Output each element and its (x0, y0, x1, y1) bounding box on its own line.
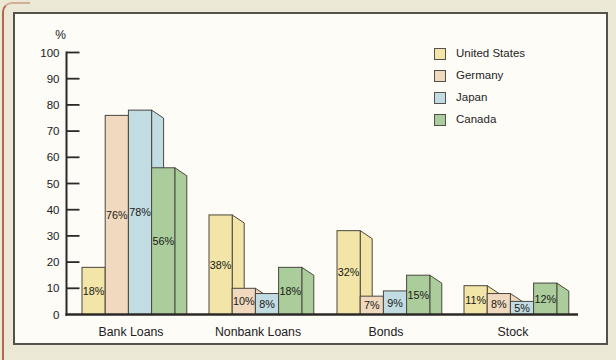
bar-value-label: 18% (279, 285, 301, 297)
y-tick-label: 50 (47, 178, 60, 190)
y-tick-label: 30 (47, 230, 60, 242)
bar-value-label: 38% (210, 259, 232, 271)
y-tick-label: 60 (47, 151, 60, 163)
legend-label-united-states: United States (456, 47, 525, 60)
bar-value-label: 11% (465, 294, 486, 306)
legend-label-japan: Japan (456, 91, 487, 104)
y-tick-label: 40 (47, 204, 60, 216)
legend-label-germany: Germany (456, 69, 503, 82)
y-tick-label: 0 (53, 309, 59, 321)
bar-side-canada-nonbank-loans (302, 267, 314, 314)
bar-side-canada-stock (557, 283, 569, 314)
y-tick-label: 90 (47, 73, 60, 85)
y-tick-label: 20 (47, 256, 60, 268)
bar-value-label: 10% (233, 295, 255, 307)
bar-value-label: 8% (491, 298, 507, 310)
bar-side-canada-bonds (430, 275, 442, 314)
legend-item-germany: Germany (434, 69, 525, 82)
legend-item-united-states: United States (434, 47, 525, 60)
legend-item-japan: Japan (434, 91, 525, 104)
bar-value-label: 18% (83, 285, 105, 297)
legend-swatch-japan (434, 92, 446, 104)
bar-value-label: 76% (106, 209, 128, 221)
bar-value-label: 15% (407, 289, 429, 301)
legend-swatch-united-states (434, 48, 446, 60)
bar-value-label: 7% (364, 299, 380, 311)
bar-value-label: 56% (152, 235, 174, 247)
x-category-label-bonds: Bonds (369, 325, 404, 339)
legend-item-canada: Canada (434, 113, 525, 126)
bar-value-label: 9% (387, 297, 403, 309)
legend-label-canada: Canada (456, 113, 496, 126)
chart-legend: United StatesGermanyJapanCanada (434, 47, 525, 135)
figure-page: 18%76%78%56%Bank Loans38%10%8%18%Nonbank… (0, 0, 616, 360)
y-axis-unit-label: % (55, 28, 66, 42)
bar-value-label: 78% (129, 206, 151, 218)
bar-value-label: 32% (338, 266, 360, 278)
y-tick-label: 70 (47, 125, 60, 137)
y-tick-label: 80 (47, 99, 60, 111)
y-tick-label: 100 (40, 47, 59, 59)
y-tick-label: 10 (47, 282, 60, 294)
bar-value-label: 8% (259, 298, 275, 310)
legend-swatch-germany (434, 70, 446, 82)
x-category-label-nonbank-loans: Nonbank Loans (215, 325, 301, 339)
x-category-label-stock: Stock (498, 325, 530, 339)
bar-value-label: 5% (514, 302, 530, 314)
bar-value-label: 12% (534, 293, 556, 305)
legend-swatch-canada (434, 114, 446, 126)
bar-side-canada-bank-loans (175, 168, 187, 315)
x-category-label-bank-loans: Bank Loans (99, 325, 164, 339)
